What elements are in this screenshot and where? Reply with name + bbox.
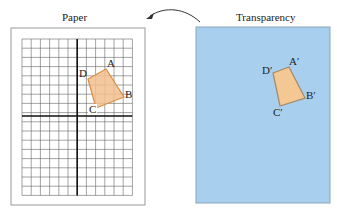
vertex-label-a-prime: A′: [289, 55, 299, 67]
vertex-label-b-prime: B′: [306, 89, 316, 101]
vertex-label-d-prime: D′: [262, 64, 272, 76]
transparency-sheet: [196, 27, 330, 203]
diagram-canvas: [0, 0, 337, 217]
paper-title: Paper: [62, 11, 87, 23]
curved-arrow-icon: [146, 10, 200, 22]
vertex-label-a: A: [107, 57, 115, 69]
transparency-title: Transparency: [236, 11, 295, 23]
vertex-label-c-prime: C′: [273, 106, 283, 118]
vertex-label-d: D: [79, 67, 87, 79]
vertex-label-c: C: [88, 104, 97, 115]
vertex-label-b: B: [125, 88, 132, 100]
